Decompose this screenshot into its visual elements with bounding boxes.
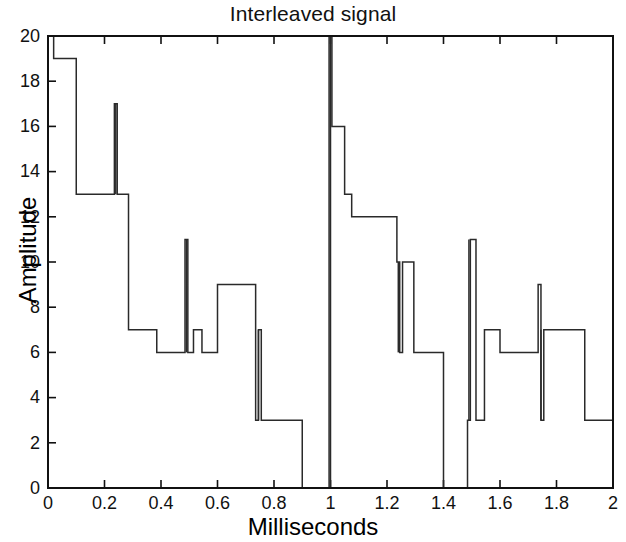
y-tick-label: 18: [20, 71, 40, 91]
y-tick-label: 4: [30, 387, 40, 407]
plot-canvas: 02468101214161820 00.20.40.60.811.21.41.…: [0, 0, 626, 542]
y-axis-label: Amplitude: [14, 150, 42, 350]
x-tick-label: 0.2: [92, 493, 117, 513]
x-tick-label: 1.4: [431, 493, 456, 513]
x-tick-label: 1.2: [374, 493, 399, 513]
x-tick-label: 1.8: [544, 493, 569, 513]
chart-figure: Interleaved signal 02468101214161820 00.…: [0, 0, 626, 542]
signal-trace-layer: [48, 36, 613, 488]
y-tick-label: 2: [30, 433, 40, 453]
x-axis-label: Milliseconds: [0, 513, 626, 541]
x-tick-label: 0.8: [261, 493, 286, 513]
y-tick-label: 0: [30, 478, 40, 498]
y-tick-label: 16: [20, 116, 40, 136]
y-tick-label: 20: [20, 26, 40, 46]
x-tick-label: 0: [43, 493, 53, 513]
x-tick-label: 1.6: [487, 493, 512, 513]
x-tick-label: 1: [325, 493, 335, 513]
x-tick-label: 0.6: [205, 493, 230, 513]
x-tick-label: 2: [608, 493, 618, 513]
x-tick-label: 0.4: [148, 493, 173, 513]
